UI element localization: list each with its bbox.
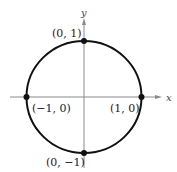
unit-circle-diagram: x y (0, 1) (−1, 0) (1, 0) (0, −1) — [0, 0, 177, 172]
label-left-point: (−1, 0) — [32, 102, 71, 115]
point-right — [139, 94, 145, 100]
x-axis-label: x — [166, 92, 172, 103]
label-right-point: (1, 0) — [110, 102, 140, 115]
y-axis-arrow-icon — [82, 18, 86, 25]
point-top — [81, 38, 87, 44]
y-axis-label: y — [80, 7, 87, 18]
label-bottom-point: (0, −1) — [46, 156, 85, 169]
point-left — [24, 94, 30, 100]
x-axis-arrow-icon — [155, 95, 162, 99]
label-top-point: (0, 1) — [52, 27, 82, 40]
